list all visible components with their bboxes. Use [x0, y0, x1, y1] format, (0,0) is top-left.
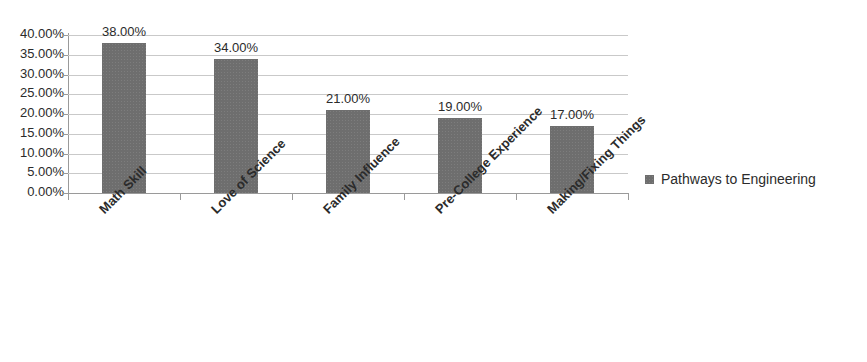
y-axis-tick-label: 0.00% [0, 184, 64, 199]
y-axis-tick [63, 55, 68, 56]
y-axis-tick [63, 75, 68, 76]
y-axis-tick-label: 40.00% [0, 26, 64, 41]
x-axis-tick [516, 193, 517, 200]
x-axis-tick [404, 193, 405, 200]
data-label: 19.00% [415, 99, 505, 114]
x-axis-tick [628, 193, 629, 200]
y-axis-tick-label: 10.00% [0, 145, 64, 160]
gridline [68, 75, 628, 76]
legend: Pathways to Engineering [645, 171, 816, 187]
x-axis-tick [180, 193, 181, 200]
y-axis-tick [63, 35, 68, 36]
y-axis-tick-label: 30.00% [0, 66, 64, 81]
y-axis-tick-label: 35.00% [0, 46, 64, 61]
y-axis-tick-label: 15.00% [0, 125, 64, 140]
y-axis-tick-label: 25.00% [0, 85, 64, 100]
y-axis-tick [63, 94, 68, 95]
y-axis-tick [63, 114, 68, 115]
legend-label: Pathways to Engineering [661, 171, 816, 187]
data-label: 34.00% [191, 40, 281, 55]
legend-swatch-icon [645, 175, 654, 184]
data-label: 38.00% [79, 24, 169, 39]
y-axis-tick [63, 134, 68, 135]
gridline [68, 55, 628, 56]
x-axis-tick [68, 193, 69, 200]
x-axis-tick [292, 193, 293, 200]
y-axis-tick [63, 154, 68, 155]
y-axis-tick [63, 173, 68, 174]
y-axis-tick-label: 20.00% [0, 105, 64, 120]
data-label: 21.00% [303, 91, 393, 106]
y-axis-tick-label: 5.00% [0, 164, 64, 179]
bar-chart: 40.00%35.00%30.00%25.00%20.00%15.00%10.0… [0, 0, 867, 362]
